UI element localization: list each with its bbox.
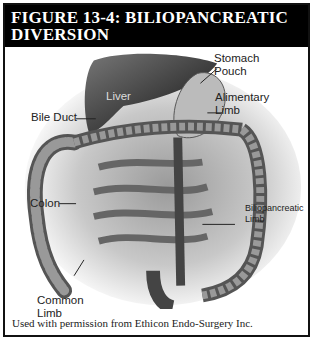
figure-title: FIGURE 13-4: BILIOPANCREATIC DIVERSION: [5, 5, 308, 47]
label-alimentary-limb-line-1: Alimentary: [215, 91, 269, 104]
label-alimentary-limb-line-2: Limb: [215, 104, 269, 117]
figure-frame: FIGURE 13-4: BILIOPANCREATIC DIVERSION: [3, 3, 310, 337]
label-biliopancreatic-limb: Biliopancreatic Limb: [245, 203, 304, 225]
label-stomach-pouch: Stomach Pouch: [214, 52, 259, 78]
label-bile-duct: Bile Duct: [31, 111, 77, 124]
label-biliopancreatic-limb-line-2: Limb: [245, 214, 304, 225]
label-biliopancreatic-limb-line-1: Biliopancreatic: [245, 203, 304, 214]
label-colon: Colon: [30, 197, 60, 210]
label-common-limb-line-1: Common: [37, 294, 84, 307]
figure-title-line-2: DIVERSION: [11, 26, 302, 43]
figure-credit: Used with permission from Ethicon Endo-S…: [12, 317, 253, 329]
label-stomach-pouch-line-2: Pouch: [214, 65, 259, 78]
anatomy-illustration: [5, 47, 308, 309]
figure-title-line-1: FIGURE 13-4: BILIOPANCREATIC: [11, 9, 302, 26]
label-liver: Liver: [106, 90, 131, 103]
label-alimentary-limb: Alimentary Limb: [215, 91, 269, 117]
label-stomach-pouch-line-1: Stomach: [214, 52, 259, 65]
